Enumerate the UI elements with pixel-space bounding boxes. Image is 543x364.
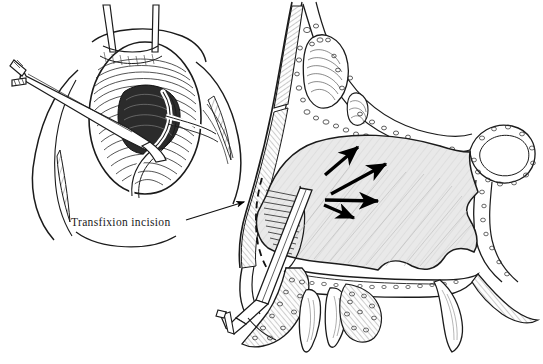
arrow-3 xyxy=(325,200,378,201)
transfixion-incision-label: Transfixion incision xyxy=(71,216,171,228)
retractor-prong-right xyxy=(152,5,159,52)
retractor-fork-tip xyxy=(216,310,226,318)
surgical-illustration xyxy=(0,0,543,364)
